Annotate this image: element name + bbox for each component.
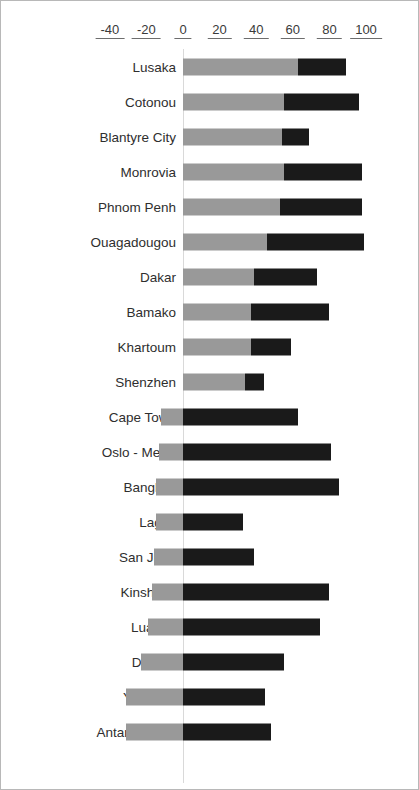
x-axis: -40-20020406080100 [1,1,419,49]
bar-row: Antananarivo [1,714,419,749]
bar-segment-light [152,583,183,600]
bar-segment-light [183,163,284,180]
bar-row: Khartoum [1,329,419,364]
bar-segment-dark [183,513,243,530]
bar-segment-dark [251,303,330,320]
bar-label-oslo---metro: Oslo - Metro [1,444,176,459]
bar-segment-dark [280,198,362,215]
bar-row: Lagos [1,504,419,539]
bar-label-monrovia: Monrovia [1,164,176,179]
bar-segment-light [126,723,183,740]
bar-row: Yaoundé [1,679,419,714]
bar-row: Luanda [1,609,419,644]
bar-segment-dark [183,583,329,600]
bar-label-bamako: Bamako [1,304,176,319]
chart-frame: -40-20020406080100 LusakaCotonouBlantyre… [0,0,419,790]
bar-row: Bamako [1,294,419,329]
bar-segment-dark [245,373,263,390]
bar-segment-light [126,688,183,705]
bar-segment-dark [183,443,331,460]
bar-label-cape-town: Cape Town [1,409,176,424]
axis-tick-neg20: -20 [132,23,161,39]
bar-label-khartoum: Khartoum [1,339,176,354]
axis-tick-60: 60 [281,23,305,39]
bar-row: Dakar [1,259,419,294]
bar-label-ouagadougou: Ouagadougou [1,234,176,249]
bar-label-blantyre-city: Blantyre City [1,129,176,144]
bar-segment-light [183,338,251,355]
bar-segment-dark [298,58,346,75]
bar-row: Phnom Penh [1,189,419,224]
plot-area: LusakaCotonouBlantyre CityMonroviaPhnom … [1,49,419,790]
bar-label-kinshasa: Kinshasa [1,584,176,599]
bar-label-cotonou: Cotonou [1,94,176,109]
bar-segment-light [183,198,280,215]
bar-row: Blantyre City [1,119,419,154]
bar-segment-dark [183,478,339,495]
bar-segment-light [148,618,183,635]
bar-segment-dark [183,548,254,565]
bar-row: Shenzhen [1,364,419,399]
axis-tick-neg40: -40 [95,23,124,39]
axis-tick-40: 40 [244,23,268,39]
bar-label-lusaka: Lusaka [1,59,176,74]
bar-label-lagos: Lagos [1,514,176,529]
bar-segment-light [183,58,298,75]
bar-segment-light [183,373,245,390]
bar-segment-dark [254,268,316,285]
axis-tick-80: 80 [317,23,341,39]
bar-segment-light [141,653,183,670]
bar-row: Durban [1,644,419,679]
bar-segment-dark [183,653,284,670]
bar-row: Kinshasa [1,574,419,609]
bar-segment-light [183,233,267,250]
bar-row: Oslo - Metro [1,434,419,469]
bar-segment-light [156,513,183,530]
bar-row: Ouagadougou [1,224,419,259]
bar-segment-light [183,128,282,145]
bar-row: Cape Town [1,399,419,434]
bar-segment-light [183,268,254,285]
bar-row: Lusaka [1,49,419,84]
bar-segment-light [159,443,183,460]
bar-segment-light [183,303,251,320]
bar-label-bangkok: Bangkok [1,479,176,494]
bar-segment-dark [282,128,309,145]
bar-segment-dark [284,163,363,180]
axis-tick-0: 0 [174,23,191,39]
bar-segment-dark [267,233,364,250]
bar-segment-dark [183,408,298,425]
bar-label-dakar: Dakar [1,269,176,284]
axis-tick-100: 100 [350,23,382,39]
bar-label-shenzhen: Shenzhen [1,374,176,389]
bar-label-phnom-penh: Phnom Penh [1,199,176,214]
bar-segment-dark [251,338,291,355]
bar-segment-dark [183,723,271,740]
bar-segment-light [183,93,284,110]
bar-segment-light [154,548,183,565]
bar-segment-dark [284,93,359,110]
bar-segment-light [161,408,183,425]
bar-label-san-juan: San Juan [1,549,176,564]
bar-row: San Juan [1,539,419,574]
bar-row: Monrovia [1,154,419,189]
bar-segment-dark [183,618,320,635]
bar-row: Bangkok [1,469,419,504]
bar-segment-dark [183,688,265,705]
bar-row: Cotonou [1,84,419,119]
axis-tick-20: 20 [207,23,231,39]
bar-segment-light [156,478,183,495]
